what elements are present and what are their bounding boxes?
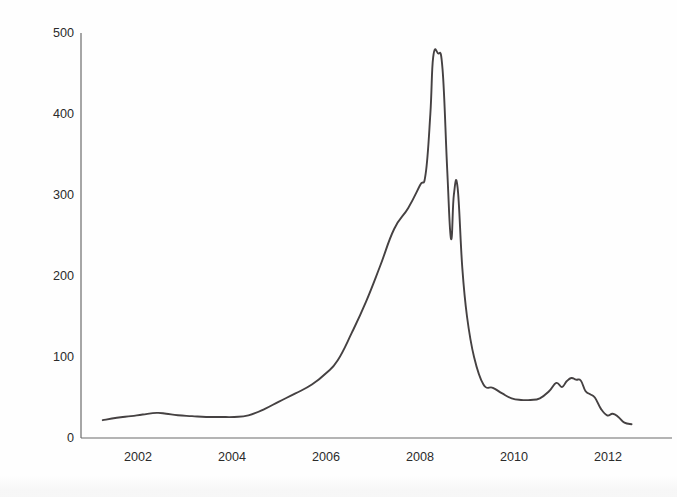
price-line [103, 49, 632, 424]
spot-price-chart: Average Spot Price (USD/kg) 010020030040… [0, 0, 677, 497]
plot-area [0, 0, 677, 497]
axis-lines [81, 33, 672, 438]
